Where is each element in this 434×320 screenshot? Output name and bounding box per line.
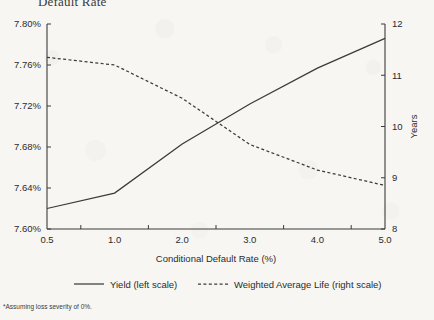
footnote: *Assuming loss severity of 0%. bbox=[3, 303, 92, 310]
x-axis-tick-label: 0.5 bbox=[40, 234, 53, 245]
left-axis-tick-labels: 7.60%7.64%7.68%7.72%7.76%7.80% bbox=[14, 18, 41, 234]
x-axis-title: Conditional Default Rate (%) bbox=[156, 253, 276, 264]
x-axis-tick-label: 2.0 bbox=[176, 234, 189, 245]
right-axis-ticks bbox=[381, 24, 385, 229]
right-axis-tick-label: 10 bbox=[392, 121, 403, 132]
right-axis-title: Years bbox=[408, 114, 419, 138]
left-axis-tick-label: 7.76% bbox=[14, 59, 41, 70]
x-axis-tick-label: 1.0 bbox=[108, 234, 121, 245]
x-axis-tick-label: 4.0 bbox=[311, 234, 324, 245]
x-axis-tick-labels: 0.51.02.03.04.05.0 bbox=[40, 234, 391, 245]
left-axis-tick-label: 7.64% bbox=[14, 182, 41, 193]
left-axis-tick-label: 7.68% bbox=[14, 141, 41, 152]
x-axis-tick-label: 5.0 bbox=[378, 234, 391, 245]
left-axis-tick-label: 7.80% bbox=[14, 18, 41, 29]
left-axis-tick-label: 7.72% bbox=[14, 100, 41, 111]
series-line-yield bbox=[47, 38, 385, 208]
x-axis-tick-label: 3.0 bbox=[243, 234, 256, 245]
legend-label-yield: Yield (left scale) bbox=[110, 279, 177, 290]
series-line-weighted-average-life bbox=[47, 57, 385, 185]
left-axis-tick-label: 7.60% bbox=[14, 223, 41, 234]
legend-label-weighted-average-life: Weighted Average Life (right scale) bbox=[234, 279, 382, 290]
right-axis-tick-label: 11 bbox=[392, 70, 402, 81]
left-axis-ticks bbox=[47, 24, 51, 229]
chart-legend: Yield (left scale) Weighted Average Life… bbox=[74, 279, 382, 290]
right-axis-tick-label: 12 bbox=[392, 18, 403, 29]
bottom-axis-ticks bbox=[81, 225, 351, 229]
chart-canvas: 7.60%7.64%7.68%7.72%7.76%7.80% 89101112 … bbox=[0, 0, 434, 320]
right-axis-tick-labels: 89101112 bbox=[392, 18, 403, 234]
right-axis-tick-label: 9 bbox=[392, 172, 397, 183]
right-axis-tick-label: 8 bbox=[392, 223, 397, 234]
